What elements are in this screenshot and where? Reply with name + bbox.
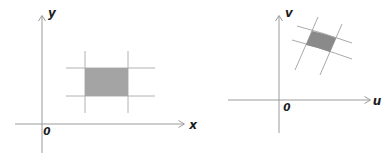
u-axis-label: u — [373, 94, 382, 108]
xy-plane-panel: y x 0 — [15, 6, 198, 153]
y-axis-label: y — [48, 6, 57, 20]
figure: y x 0 v u 0 — [0, 0, 392, 159]
shaded-rectangle — [85, 68, 128, 96]
xy-origin-label: 0 — [43, 125, 50, 137]
v-axis-label: v — [285, 6, 294, 20]
uv-plane-panel: v u 0 — [228, 6, 382, 133]
uv-origin-label: 0 — [283, 101, 290, 113]
diagram-canvas: y x 0 v u 0 — [0, 0, 392, 159]
x-axis-label: x — [188, 118, 198, 132]
